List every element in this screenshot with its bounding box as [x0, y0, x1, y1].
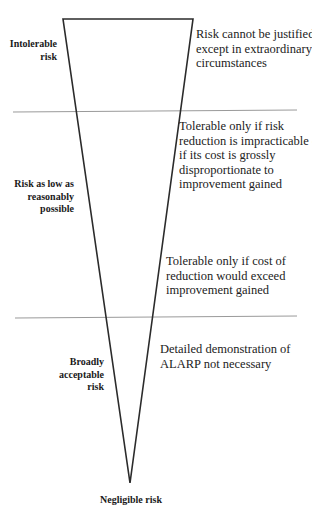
zone-label-line: Intolerable: [10, 38, 57, 51]
zone-label-line: acceptable: [59, 369, 104, 382]
description-line: reduction would exceed: [166, 269, 286, 284]
description-line: improvement gained: [166, 283, 286, 298]
zone-label-line: Risk as low as: [14, 178, 74, 191]
alarp-diagram: Intolerable risk Risk cannot be justifie…: [0, 0, 312, 510]
zone-label-line: risk: [59, 381, 104, 394]
description-line: circumstances: [196, 56, 312, 71]
zone-label-line: Broadly: [59, 356, 104, 369]
apex-label-negligible-risk: Negligible risk: [100, 494, 162, 505]
description-alarp-lower: Tolerable only if cost of reduction woul…: [166, 254, 286, 298]
description-line: if its cost is grossly: [179, 148, 312, 163]
zone-label-line: risk: [10, 51, 57, 64]
zone-label-line: possible: [14, 203, 74, 216]
description-line: ALARP not necessary: [160, 357, 291, 372]
description-alarp-upper: Tolerable only if risk reduction is impr…: [179, 119, 312, 192]
description-line: Tolerable only if cost of: [166, 254, 286, 269]
description-line: Detailed demonstration of: [160, 342, 291, 357]
zone-label-alarp: Risk as low as reasonably possible: [14, 178, 74, 216]
description-line: disproportionate to: [179, 163, 312, 178]
zone-label-intolerable: Intolerable risk: [10, 38, 57, 63]
description-intolerable: Risk cannot be justified except in extra…: [196, 27, 312, 71]
zone-label-line: reasonably: [14, 191, 74, 204]
description-broadly-acceptable: Detailed demonstration of ALARP not nece…: [160, 342, 291, 371]
description-line: reduction is impracticable or: [179, 134, 312, 149]
divider-alarp-acceptable: [15, 316, 297, 318]
description-line: improvement gained: [179, 177, 312, 192]
divider-intolerable-alarp: [13, 110, 297, 112]
zone-label-broadly-acceptable: Broadly acceptable risk: [59, 356, 104, 394]
description-line: Tolerable only if risk: [179, 119, 312, 134]
description-line: except in extraordinary: [196, 42, 312, 57]
inverted-risk-triangle: [63, 19, 193, 483]
description-line: Risk cannot be justified: [196, 27, 312, 42]
